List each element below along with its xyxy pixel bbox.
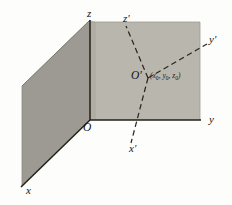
- coord-z-subscript: 0: [175, 75, 178, 81]
- translated-origin-coordinates: (x0, y0, z0): [150, 72, 181, 80]
- figure-canvas: [0, 0, 232, 205]
- x-axis-label: x: [26, 185, 31, 196]
- yz-plane-surface: [90, 22, 200, 120]
- x-prime-axis-label: x': [129, 143, 136, 154]
- origin-label: O: [83, 122, 91, 134]
- coord-x-subscript: 0: [156, 75, 159, 81]
- coordinate-system-figure: z z' y' y O O' (x0, y0, z0) x' x: [0, 0, 232, 205]
- z-axis-label: z: [87, 8, 91, 19]
- plane-fold-shadow: [90, 20, 96, 120]
- y-axis-label: y: [209, 114, 214, 125]
- z-prime-axis-label: z': [123, 13, 130, 24]
- xz-plane-surface: [22, 20, 90, 186]
- coord-y-subscript: 0: [166, 75, 169, 81]
- translated-origin-label: O': [131, 70, 142, 82]
- coord-close-paren: ): [178, 71, 181, 80]
- y-prime-axis-label: y': [209, 34, 216, 45]
